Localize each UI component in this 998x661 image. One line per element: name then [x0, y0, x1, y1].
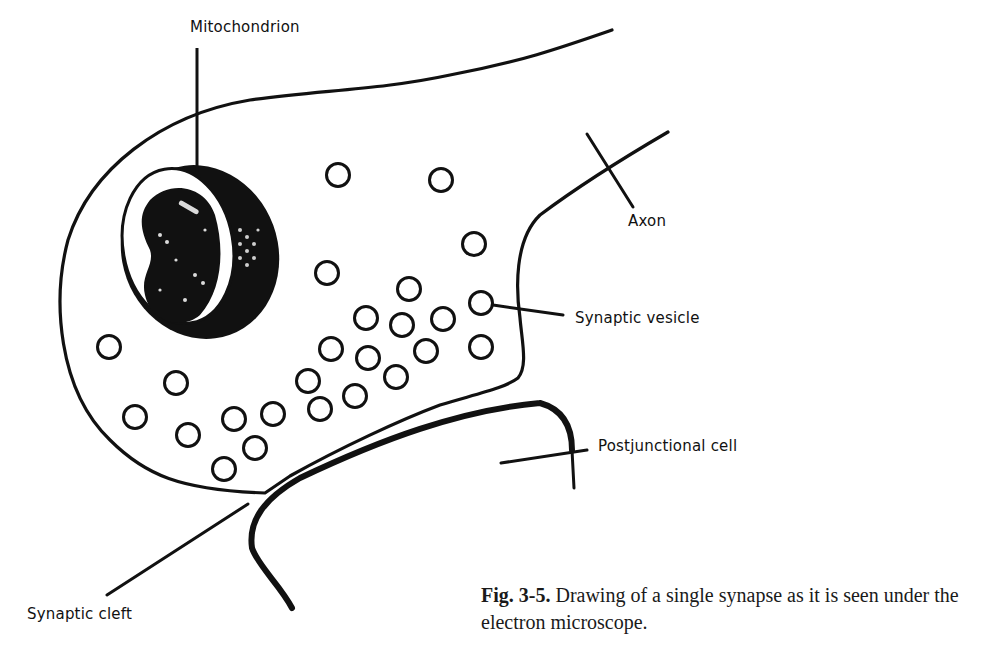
label-synaptic-cleft: Synaptic cleft	[27, 605, 132, 623]
vesicle	[344, 385, 367, 408]
vesicle	[470, 292, 493, 315]
vesicle	[463, 233, 486, 256]
vesicle	[391, 314, 414, 337]
label-mitochondrion: Mitochondrion	[190, 18, 300, 36]
vesicle	[398, 278, 421, 301]
vesicle	[165, 372, 188, 395]
postsynaptic-membrane	[251, 403, 572, 608]
label-axon: Axon	[628, 212, 666, 230]
vesicle	[385, 366, 408, 389]
figure-number: Fig. 3-5.	[481, 584, 550, 606]
vesicle	[98, 336, 121, 359]
mitochondrion	[97, 48, 304, 361]
caption-text: Drawing of a single synapse as it is see…	[481, 584, 959, 633]
vesicle	[355, 307, 378, 330]
synaptic-cleft-pointer	[107, 504, 248, 595]
postjunctional-pointer	[501, 450, 587, 463]
axon-pointer	[587, 134, 633, 207]
vesicle	[432, 308, 455, 331]
vesicle	[316, 262, 339, 285]
vesicle	[470, 336, 493, 359]
vesicle	[357, 347, 380, 370]
vesicle	[297, 370, 320, 393]
label-postjunctional-cell: Postjunctional cell	[598, 437, 737, 455]
vesicle	[262, 403, 285, 426]
figure-caption: Fig. 3-5. Drawing of a single synapse as…	[481, 582, 998, 636]
label-synaptic-vesicle: Synaptic vesicle	[575, 309, 700, 327]
postjunctional-curve	[572, 450, 574, 488]
vesicle	[213, 458, 236, 481]
vesicle	[327, 164, 350, 187]
synaptic-vesicle-pointer	[493, 305, 563, 315]
vesicle	[320, 338, 343, 361]
vesicle	[415, 340, 438, 363]
vesicle	[309, 398, 332, 421]
vesicle	[244, 437, 267, 460]
vesicle	[430, 169, 453, 192]
synapse-figure: Mitochondrion Axon Synaptic vesicle Post…	[0, 0, 998, 661]
vesicle	[124, 406, 147, 429]
vesicle	[177, 424, 200, 447]
synapse-drawing	[0, 0, 998, 661]
vesicle	[223, 408, 246, 431]
